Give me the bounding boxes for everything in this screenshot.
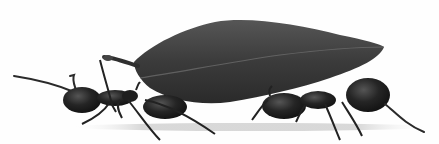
scene-illustration [0,0,439,144]
ant-leaf-scene [0,0,439,144]
leaf [103,20,384,103]
ground-shadow [70,123,430,131]
